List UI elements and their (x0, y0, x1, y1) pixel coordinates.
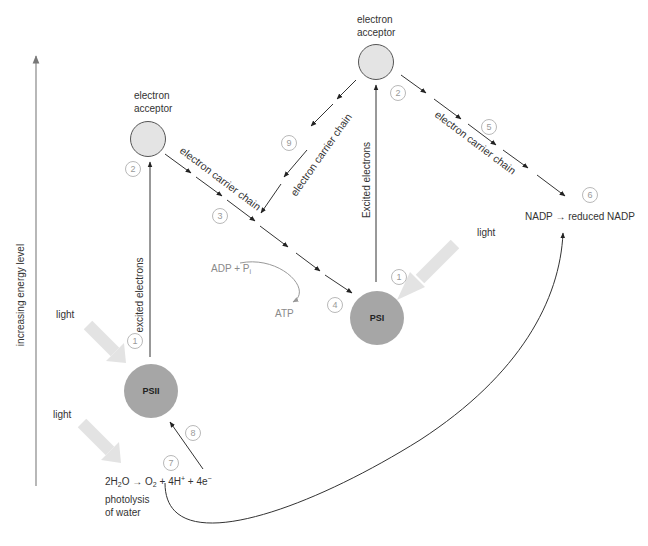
electron-acceptor-left-label-2: acceptor (134, 103, 173, 114)
electron-acceptor-right-circle (359, 45, 394, 80)
atp-label: ATP (275, 308, 294, 319)
electron-flow-curve-to-nadp (165, 233, 563, 523)
photolysis-equation: 2H2O → O2 + 4H+ + 4e− photolysis of wate… (105, 475, 212, 518)
step-number-acceptor-right-2: 2 (391, 86, 406, 101)
svg-text:3: 3 (217, 211, 222, 221)
psi-label: PSI (370, 313, 385, 323)
excited-electrons-label-left: excited electrons (134, 257, 145, 332)
electron-carrier-chain-left-label: electron carrier chain (178, 144, 264, 213)
nadp-reduction-label: NADP → reduced NADP (525, 211, 635, 222)
svg-text:7: 7 (168, 458, 173, 468)
step-number-psii-1: 1 (128, 334, 143, 349)
energy-axis-label: increasing energy level (15, 244, 26, 346)
svg-text:4: 4 (332, 300, 337, 310)
step-number-water-7: 7 (164, 456, 179, 471)
light-arrow-psii (88, 325, 126, 363)
svg-text:1: 1 (132, 336, 137, 346)
atp-synthesis: ADP + Pi ATP (211, 262, 299, 319)
svg-text:9: 9 (286, 138, 291, 148)
electron-acceptor-left: electron acceptor (131, 90, 174, 157)
electron-acceptor-right: electron acceptor (357, 14, 396, 80)
svg-text:5: 5 (486, 122, 491, 132)
photosystem-i: PSI (350, 291, 404, 345)
electron-acceptor-right-label-1: electron (357, 14, 393, 25)
svg-text:2: 2 (395, 88, 400, 98)
z-scheme-diagram: increasing energy level light light ligh… (0, 0, 648, 546)
light-arrow-water (82, 423, 121, 463)
step-number-cyclic-9: 9 (282, 136, 297, 151)
electron-acceptor-left-label-1: electron (134, 90, 170, 101)
electron-carrier-chain-right-label: electron carrier chain (433, 108, 519, 177)
water-equation: 2H2O → O2 + 4H+ + 4e− (105, 475, 212, 488)
svg-text:1: 1 (396, 272, 401, 282)
psii-label: PSII (142, 386, 159, 396)
step-number-psi-4: 4 (328, 298, 343, 313)
svg-text:8: 8 (190, 428, 195, 438)
excited-electrons-label-right: Excited electrons (361, 142, 372, 218)
photolysis-label-2: of water (105, 507, 141, 518)
electron-carrier-chain-right: electron carrier chain (401, 75, 565, 196)
step-number-psi-1: 1 (392, 270, 407, 285)
electron-acceptor-right-label-2: acceptor (357, 27, 396, 38)
energy-axis: increasing energy level (15, 56, 36, 486)
light-label-water: light (53, 409, 72, 420)
light-label-psi: light (477, 227, 496, 238)
electron-carrier-chain-cyclic: electron carrier chain (261, 80, 356, 213)
adp-label: ADP + Pi (211, 263, 251, 275)
step-number-chain-3: 3 (213, 209, 228, 224)
step-number-acceptor-left-2: 2 (126, 162, 141, 177)
step-number-chain-5: 5 (482, 120, 497, 135)
electron-carrier-chain-left: electron carrier chain (165, 144, 352, 293)
svg-text:6: 6 (587, 190, 592, 200)
photolysis-label-1: photolysis (105, 494, 149, 505)
light-arrow-psi (397, 244, 455, 300)
photosystem-ii: PSII (124, 364, 178, 418)
electron-carrier-chain-cyclic-label: electron carrier chain (288, 111, 354, 198)
svg-text:2: 2 (130, 164, 135, 174)
step-number-return-8: 8 (186, 426, 201, 441)
step-number-nadp-6: 6 (583, 188, 598, 203)
electron-acceptor-left-circle (131, 122, 166, 157)
light-label-psii: light (56, 309, 75, 320)
